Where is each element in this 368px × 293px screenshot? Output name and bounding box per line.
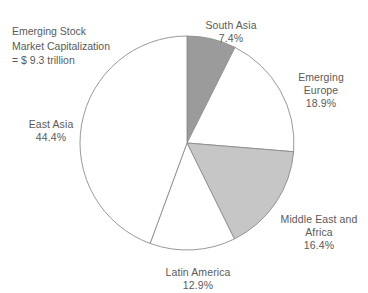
slice-label-south-asia: South Asia 7.4%: [176, 6, 286, 58]
chart-caption: Emerging Stock Market Capitalization = $…: [12, 24, 130, 68]
slice-label-latin-america-value: 12.9%: [140, 279, 256, 292]
slice-label-east-asia-name: East Asia: [29, 118, 74, 130]
slice-label-emerging-europe-name: Emerging Europe: [298, 71, 344, 96]
slice-label-south-asia-value: 7.4%: [176, 32, 286, 45]
slice-label-emerging-europe: Emerging Europe 18.9%: [281, 58, 361, 123]
slice-label-middle-east-and-africa: Middle East and Africa 16.4%: [272, 200, 366, 265]
slice-label-latin-america: Latin America 12.9%: [140, 253, 256, 293]
slice-label-south-asia-name: South Asia: [205, 19, 256, 31]
slice-label-latin-america-name: Latin America: [166, 266, 231, 278]
slice-label-emerging-europe-value: 18.9%: [281, 97, 361, 110]
slice-label-middle-east-and-africa-name: Middle East and Africa: [281, 213, 358, 238]
slice-label-middle-east-and-africa-value: 16.4%: [272, 239, 366, 252]
slice-label-east-asia-value: 44.4%: [8, 131, 94, 144]
slice-label-east-asia: East Asia 44.4%: [8, 105, 94, 157]
